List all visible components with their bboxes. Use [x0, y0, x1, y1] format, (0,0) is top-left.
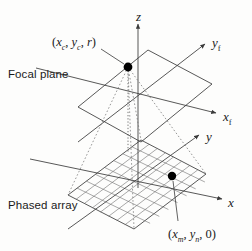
cone-lines [68, 67, 206, 229]
focal-point-leader [101, 49, 124, 64]
focal-point-dot [124, 63, 133, 72]
array-point-dot [168, 172, 176, 180]
xf-axis-label: xf [223, 110, 232, 126]
yf-axis-line [78, 44, 205, 142]
yf-axis-label: yf [212, 36, 221, 52]
phased-array-grid [76, 144, 205, 225]
focal-plane-quad [78, 50, 212, 142]
phased-array-label: Phased array [8, 200, 78, 212]
focal-plane-label: Focal plane [8, 69, 69, 81]
figure-canvas: Focal plane Phased array z yf xf y x (xc… [0, 0, 252, 251]
array-point-coord-label: (xm, yn, 0) [168, 228, 216, 244]
x-axis-label: x [228, 196, 234, 209]
z-axis-label: z [136, 10, 141, 23]
y-axis-label: y [206, 130, 212, 143]
focal-point-coord-label: (xc, yc, r) [52, 36, 96, 52]
